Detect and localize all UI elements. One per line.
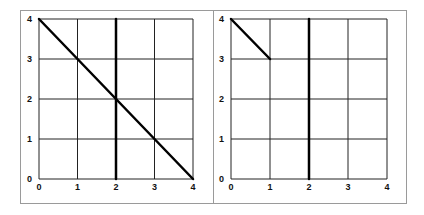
x-tick-label: 3 bbox=[345, 182, 350, 192]
y-tick-label: 1 bbox=[219, 134, 224, 144]
x-tick-label: 2 bbox=[113, 182, 118, 192]
y-tick-label: 0 bbox=[219, 174, 224, 184]
x-tick-label: 0 bbox=[36, 182, 41, 192]
plot-right: 0123401234 bbox=[214, 11, 408, 205]
y-tick-label: 2 bbox=[27, 94, 32, 104]
x-tick-label: 3 bbox=[152, 182, 157, 192]
y-tick-label: 3 bbox=[27, 54, 32, 64]
series-diagonal-segment bbox=[231, 19, 270, 59]
x-tick-label: 2 bbox=[306, 182, 311, 192]
chart-panel-right: 0123401234 bbox=[213, 10, 407, 204]
x-tick-label: 1 bbox=[267, 182, 272, 192]
x-tick-label: 4 bbox=[190, 182, 195, 192]
y-tick-label: 4 bbox=[27, 14, 32, 24]
x-tick-label: 1 bbox=[75, 182, 80, 192]
x-tick-label: 4 bbox=[384, 182, 389, 192]
x-tick-label: 0 bbox=[228, 182, 233, 192]
y-tick-label: 1 bbox=[27, 134, 32, 144]
y-tick-label: 2 bbox=[219, 94, 224, 104]
chart-panel-left: 0123401234 bbox=[20, 10, 214, 204]
plot-left: 0123401234 bbox=[21, 11, 215, 205]
y-tick-label: 4 bbox=[219, 14, 224, 24]
y-tick-label: 0 bbox=[27, 174, 32, 184]
y-tick-label: 3 bbox=[219, 54, 224, 64]
